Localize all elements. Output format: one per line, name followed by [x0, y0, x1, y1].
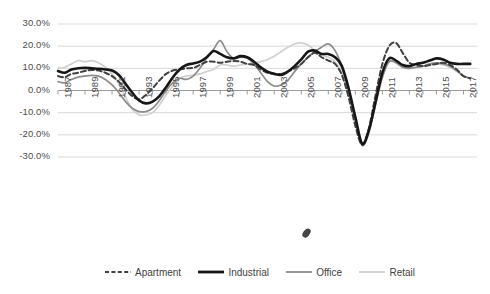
y-tick-label: 10.0% [0, 61, 50, 72]
legend-label-industrial: Industrial [228, 267, 269, 278]
legend-swatch-industrial [198, 267, 224, 277]
legend-item-apartment[interactable]: Apartment [105, 267, 181, 278]
legend-item-office[interactable]: Office [286, 267, 342, 278]
y-tick-label: 0.0% [0, 84, 50, 95]
y-tick-label: 30.0% [0, 17, 50, 28]
legend-swatch-retail [359, 267, 385, 277]
x-tick-label: 1991 [116, 76, 127, 98]
x-tick-label: 2007 [332, 76, 343, 98]
x-tick-label: 1999 [224, 76, 235, 98]
x-tick-label: 2017 [467, 76, 478, 98]
x-tick-label: 2015 [440, 76, 451, 98]
x-tick-label: 1987 [62, 76, 73, 98]
x-tick-label: 2001 [251, 76, 262, 98]
x-tick-label: 1989 [89, 76, 100, 98]
x-tick-label: 1993 [143, 76, 154, 98]
plot-area [0, 0, 490, 294]
legend-label-apartment: Apartment [135, 267, 181, 278]
legend-item-retail[interactable]: Retail [359, 267, 415, 278]
x-tick-label: 2005 [305, 76, 316, 98]
x-tick-label: 2011 [386, 77, 397, 98]
y-tick-label: -20.0% [0, 128, 50, 139]
x-tick-label: 1995 [170, 76, 181, 98]
y-tick-label: -30.0% [0, 150, 50, 161]
x-tick-label: 2013 [413, 76, 424, 98]
y-tick-label: -10.0% [0, 106, 50, 117]
x-tick-label: 2003 [278, 76, 289, 98]
x-tick-label: 1997 [197, 76, 208, 98]
chart-legend: Apartment Industrial Office Retail [105, 262, 415, 282]
legend-label-office: Office [316, 267, 342, 278]
legend-swatch-office [286, 267, 312, 277]
x-tick-label: 2009 [359, 76, 370, 98]
legend-label-retail: Retail [389, 267, 415, 278]
y-tick-label: 20.0% [0, 39, 50, 50]
legend-item-industrial[interactable]: Industrial [198, 267, 269, 278]
line-chart: 30.0%20.0%10.0%0.0%-10.0%-20.0%-30.0% 19… [0, 0, 490, 294]
legend-swatch-apartment [105, 267, 131, 277]
